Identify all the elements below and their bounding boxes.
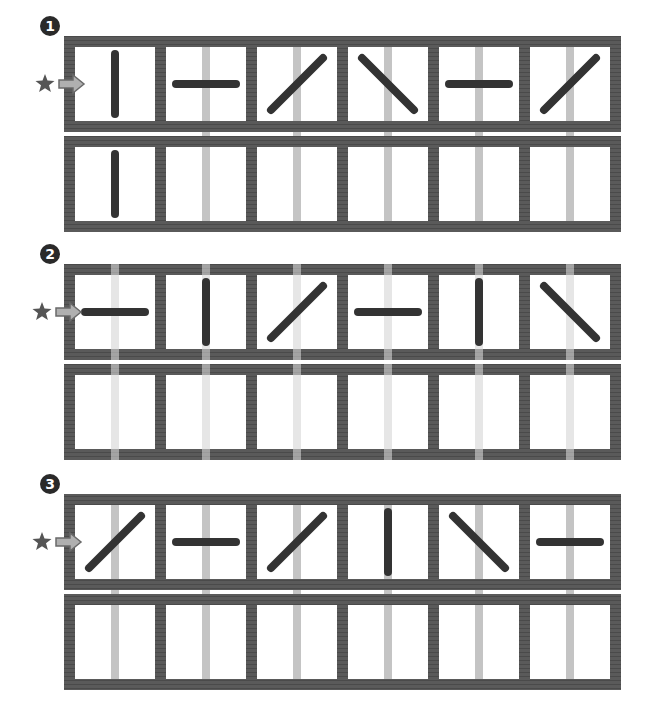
star-icon bbox=[33, 532, 52, 550]
guide-bar bbox=[475, 605, 483, 679]
guide-bar-cell bbox=[384, 375, 392, 449]
guide-bar-cell bbox=[202, 375, 210, 449]
guide-bar bbox=[202, 147, 210, 221]
badge-number: 1 bbox=[45, 18, 55, 34]
guide-bar-gap bbox=[293, 132, 301, 136]
step-badge: 2 bbox=[40, 244, 60, 264]
guide-bar bbox=[293, 147, 301, 221]
guide-bar bbox=[384, 605, 392, 679]
guide-bar bbox=[111, 605, 119, 679]
panel-3: 3 bbox=[33, 474, 622, 690]
guide-bar-gap bbox=[111, 590, 119, 594]
guide-bar bbox=[475, 147, 483, 221]
guide-bar-gap bbox=[293, 590, 301, 594]
guide-bar-gap bbox=[384, 132, 392, 136]
guide-bar bbox=[566, 147, 574, 221]
step-badge: 3 bbox=[40, 474, 60, 494]
badge-number: 2 bbox=[45, 246, 55, 262]
step-badge: 1 bbox=[40, 16, 60, 36]
badge-number: 3 bbox=[45, 476, 55, 492]
star-icon bbox=[36, 74, 55, 92]
guide-bar-gap bbox=[202, 590, 210, 594]
guide-bar-gap bbox=[475, 132, 483, 136]
guide-bar bbox=[384, 147, 392, 221]
guide-bar-cell bbox=[475, 375, 483, 449]
guide-bar bbox=[293, 605, 301, 679]
guide-bar-cell bbox=[566, 375, 574, 449]
guide-bar bbox=[566, 605, 574, 679]
guide-bar-cell bbox=[111, 375, 119, 449]
pattern-worksheet: 123 bbox=[0, 0, 658, 719]
guide-bar-gap bbox=[384, 590, 392, 594]
guide-bar bbox=[202, 605, 210, 679]
panel-1: 1 bbox=[36, 16, 622, 232]
guide-bar-gap bbox=[475, 590, 483, 594]
guide-bar-cell bbox=[293, 375, 301, 449]
guide-bar-gap bbox=[202, 132, 210, 136]
guide-bar-gap bbox=[566, 132, 574, 136]
panel-2: 2 bbox=[33, 244, 622, 460]
star-icon bbox=[33, 302, 52, 320]
guide-bar-gap bbox=[566, 590, 574, 594]
